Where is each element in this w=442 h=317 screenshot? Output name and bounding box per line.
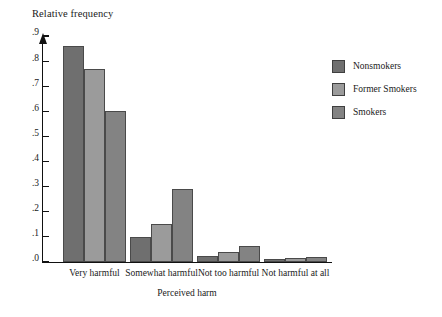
x-axis-category-label: Not harmful at all bbox=[262, 268, 330, 278]
bar bbox=[197, 256, 218, 262]
x-axis-category-label: Not too harmful bbox=[198, 268, 259, 278]
legend: NonsmokersFormer SmokersSmokers bbox=[332, 56, 417, 125]
y-axis-tick-label: .2 bbox=[32, 204, 39, 214]
y-axis-tick: .3 bbox=[43, 186, 49, 187]
y-axis-tick: .2 bbox=[43, 211, 49, 212]
bar bbox=[63, 46, 84, 262]
y-axis-tick-label: .5 bbox=[32, 129, 39, 139]
plot-area: .0.1.2.3.4.5.6.7.8.9 Very harmfulSomewha… bbox=[42, 30, 324, 262]
bar bbox=[264, 259, 285, 262]
y-axis-tick-label: .3 bbox=[32, 179, 39, 189]
legend-item-label: Nonsmokers bbox=[353, 61, 401, 71]
x-axis-category-label: Somewhat harmful bbox=[125, 268, 198, 278]
y-axis-title: Relative frequency bbox=[32, 8, 113, 19]
y-axis-line bbox=[42, 36, 43, 262]
bar bbox=[172, 189, 193, 262]
bar bbox=[218, 252, 239, 262]
x-axis-line bbox=[42, 262, 332, 263]
bar bbox=[130, 237, 151, 262]
y-axis-tick: .0 bbox=[43, 261, 49, 262]
y-axis-tick-label: .4 bbox=[32, 154, 39, 164]
y-axis-tick-label: .8 bbox=[32, 54, 39, 64]
bar bbox=[105, 111, 126, 262]
y-axis-tick-label: .0 bbox=[32, 254, 39, 264]
bar bbox=[151, 224, 172, 262]
y-axis-tick-label: .1 bbox=[32, 229, 39, 239]
legend-item: Smokers bbox=[332, 102, 417, 122]
bar bbox=[84, 69, 105, 262]
y-axis-tick: .8 bbox=[43, 61, 49, 62]
legend-item: Nonsmokers bbox=[332, 56, 417, 76]
bar-chart: Relative frequency .0.1.2.3.4.5.6.7.8.9 … bbox=[0, 0, 442, 317]
legend-swatch-icon bbox=[332, 106, 345, 119]
y-axis-tick-label: .9 bbox=[32, 28, 39, 38]
y-axis-tick: .6 bbox=[43, 111, 49, 112]
bar bbox=[239, 246, 260, 262]
y-axis-tick: .1 bbox=[43, 236, 49, 237]
y-axis-tick: .5 bbox=[43, 136, 49, 137]
y-axis-tick-label: .6 bbox=[32, 104, 39, 114]
y-axis-tick: .4 bbox=[43, 161, 49, 162]
legend-item: Former Smokers bbox=[332, 79, 417, 99]
y-axis-tick: .7 bbox=[43, 86, 49, 87]
x-axis-title: Perceived harm bbox=[157, 288, 216, 298]
y-axis-tick: .9 bbox=[43, 35, 49, 36]
bar bbox=[306, 257, 327, 262]
legend-item-label: Smokers bbox=[353, 107, 386, 117]
legend-swatch-icon bbox=[332, 60, 345, 73]
legend-item-label: Former Smokers bbox=[353, 84, 417, 94]
y-axis-tick-label: .7 bbox=[32, 79, 39, 89]
legend-swatch-icon bbox=[332, 83, 345, 96]
x-axis-category-label: Very harmful bbox=[69, 268, 119, 278]
bar bbox=[285, 258, 306, 262]
